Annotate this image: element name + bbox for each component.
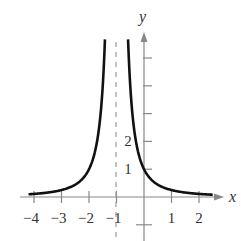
x-tick-label: −2 [78, 210, 94, 226]
x-tick-label: 1 [168, 210, 176, 226]
x-axis-label: x [228, 188, 236, 205]
y-axis-arrow-icon [141, 32, 148, 42]
x-tick-label: −4 [23, 210, 39, 226]
y-tick-label: 2 [124, 133, 132, 149]
x-tick-label: −1 [106, 210, 122, 226]
x-axis-arrow-icon [214, 194, 224, 201]
y-axis-label: y [137, 8, 147, 26]
x-tick-label: 2 [195, 210, 203, 226]
curve-right-branch [128, 39, 213, 194]
y-tick-label: 1 [124, 161, 132, 177]
x-tick-label: −3 [51, 210, 67, 226]
x-tick-labels: −4−3−2−112 [23, 210, 203, 226]
y-axis [136, 32, 152, 241]
y-tick-labels: 12 [124, 133, 132, 177]
function-graph: x y −4−3−2−112 12 [0, 0, 241, 241]
curve-left-branch [29, 39, 105, 194]
